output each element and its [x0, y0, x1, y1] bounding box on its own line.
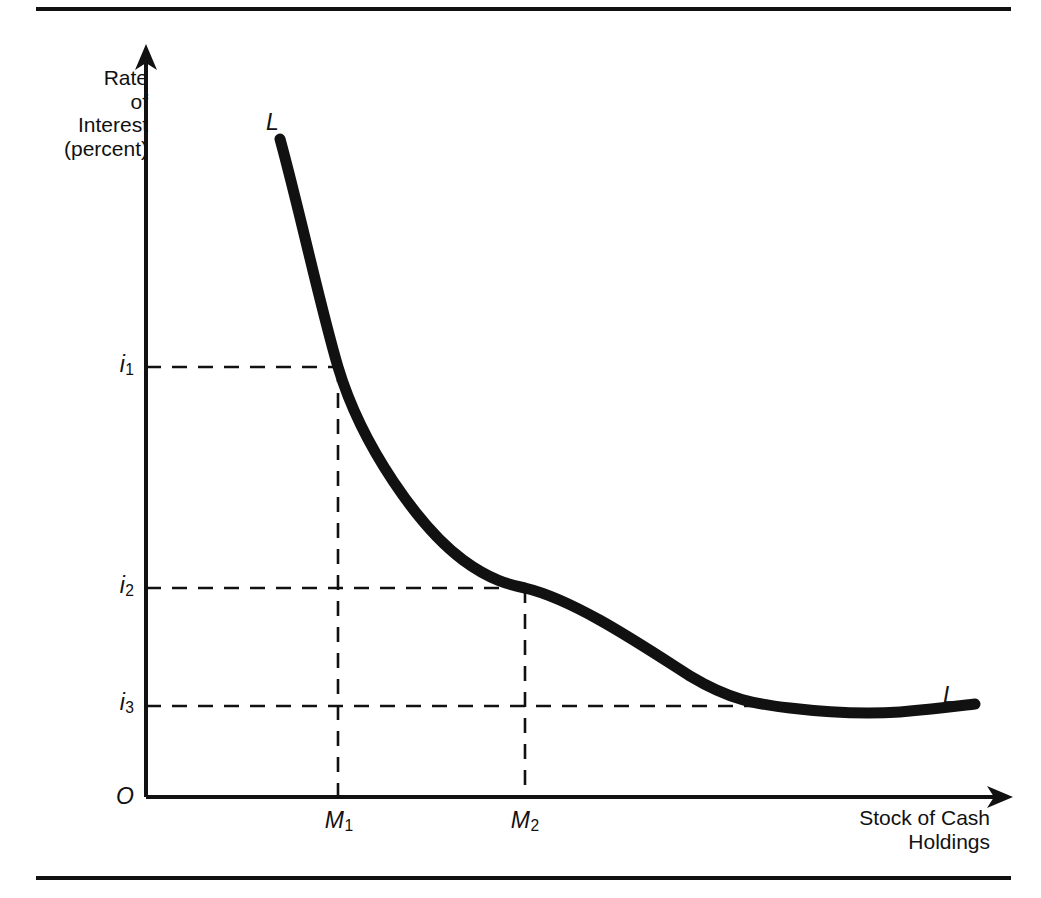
x-tick-m1-subscript: 1 — [344, 817, 353, 834]
x-axis — [146, 786, 1013, 808]
y-tick-i2-subscript: 2 — [125, 582, 134, 599]
liquidity-preference-chart — [0, 0, 1041, 898]
x-tick-label-m2: M2 — [502, 808, 548, 835]
liquidity-preference-curve — [280, 139, 975, 713]
y-tick-label-i3: i3 — [100, 690, 134, 717]
guide-lines-i2-m2 — [146, 588, 527, 797]
x-tick-m2-subscript: 2 — [530, 817, 539, 834]
origin-label: O — [100, 784, 134, 810]
y-tick-label-i2: i2 — [100, 573, 134, 600]
x-tick-m1-base: M — [325, 807, 344, 833]
guide-lines-i1-m1 — [146, 367, 340, 797]
figure-page: Rate of Interest (percent) Stock of Cash… — [0, 0, 1041, 898]
y-axis-title: Rate of Interest (percent) — [40, 66, 148, 160]
x-tick-label-m1: M1 — [316, 808, 362, 835]
curve-label-right: L — [943, 683, 956, 709]
y-tick-label-i1: i1 — [100, 352, 134, 379]
y-tick-i1-subscript: 1 — [125, 361, 134, 378]
x-tick-m2-base: M — [511, 807, 530, 833]
x-axis-title: Stock of Cash Holdings — [760, 806, 990, 853]
y-tick-i3-subscript: 3 — [125, 699, 134, 716]
curve-label-left: L — [266, 110, 279, 136]
